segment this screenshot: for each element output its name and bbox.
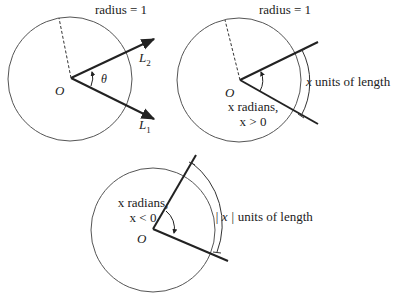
- angle-label-positive-line1: x radians,: [218, 100, 288, 113]
- arc-length-bracket-3: [192, 163, 222, 252]
- arc-tick-bottom-3: [213, 252, 221, 253]
- origin-label-2: O: [225, 86, 234, 99]
- arc-length-text-2: units of length: [312, 74, 390, 89]
- angle-label-negative-line2: x < 0: [108, 211, 178, 224]
- ray-L1-label: L1: [139, 118, 151, 135]
- angle-theta-arc-icon: [91, 72, 93, 86]
- angle-label-positive-line2: x > 0: [218, 115, 288, 128]
- dashed-radius-2: [225, 20, 240, 80]
- origin-label-1: O: [55, 84, 64, 97]
- ray-L1-subscript: 1: [146, 125, 151, 135]
- radius-caption-2: radius = 1: [259, 3, 311, 16]
- radian-diagram: [0, 0, 398, 297]
- ray-L2-label: L2: [139, 51, 151, 68]
- arc-length-var-3: | x |: [215, 209, 234, 224]
- positive-angle-arc-icon: [260, 72, 263, 91]
- angle-label-positive: x radians, x > 0: [218, 100, 288, 128]
- angle-label-negative: x radians, x < 0: [108, 196, 178, 224]
- ray-L1: [71, 78, 154, 119]
- dashed-radius-1: [59, 18, 71, 78]
- arc-length-text-3: units of length: [234, 209, 312, 224]
- arc-length-label-3: | x | units of length: [215, 210, 313, 223]
- ray-L2-subscript: 2: [146, 58, 151, 68]
- radius-caption-1: radius = 1: [95, 3, 147, 16]
- unit-circle-1: [8, 17, 132, 141]
- origin-label-3: O: [137, 232, 146, 245]
- panel-1-unit-circle: [8, 17, 154, 141]
- theta-label: θ: [101, 73, 107, 85]
- terminal-ray-3: [153, 229, 228, 261]
- angle-label-negative-line1: x radians,: [108, 196, 178, 209]
- arc-length-label-2: x units of length: [306, 75, 390, 88]
